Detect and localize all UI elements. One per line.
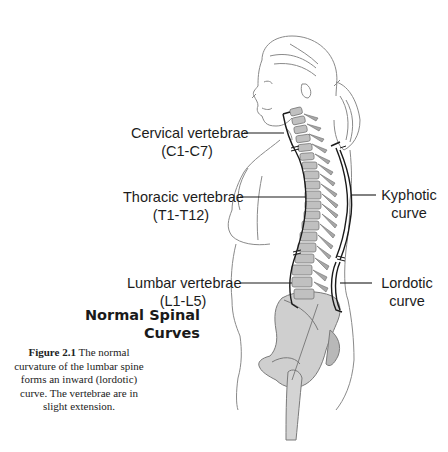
- label-lordotic-line1: Lordotic: [376, 274, 438, 292]
- label-lordotic: Lordotic curve: [376, 274, 438, 310]
- figure-number: Figure 2.1: [28, 346, 75, 358]
- figure-title-line2: Curves: [85, 324, 200, 342]
- figure-caption: Figure 2.1 The normal curvature of the l…: [10, 346, 148, 414]
- label-thoracic-range: (T1-T12): [123, 206, 239, 224]
- vertebral-column: [289, 107, 321, 299]
- label-kyphotic-line1: Kyphotic: [378, 186, 440, 204]
- label-cervical-range: (C1-C7): [131, 142, 243, 160]
- label-thoracic: Thoracic vertebrae (T1-T12): [123, 188, 239, 224]
- figure-title: Normal Spinal Curves: [85, 306, 200, 342]
- figure-title-line1: Normal Spinal: [85, 306, 200, 324]
- femur: [286, 370, 302, 440]
- label-lumbar: Lumbar vertebrae (L1-L5): [127, 274, 239, 310]
- label-lordotic-line2: curve: [376, 292, 438, 310]
- label-kyphotic-line2: curve: [378, 204, 440, 222]
- label-lumbar-name: Lumbar vertebrae: [127, 274, 239, 292]
- label-cervical: Cervical vertebrae (C1-C7): [131, 124, 243, 160]
- label-kyphotic: Kyphotic curve: [378, 186, 440, 222]
- label-cervical-name: Cervical vertebrae: [131, 124, 243, 142]
- label-thoracic-name: Thoracic vertebrae: [123, 188, 239, 206]
- spinal-curves-figure: Cervical vertebrae (C1-C7) Thoracic vert…: [0, 0, 448, 452]
